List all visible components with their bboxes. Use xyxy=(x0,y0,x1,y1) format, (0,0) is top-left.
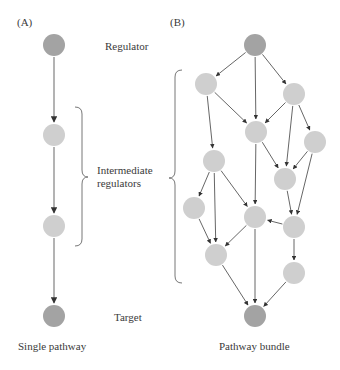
a-node-int2 xyxy=(43,215,65,237)
b-edge-R1-to-MR xyxy=(286,106,292,166)
b-edge-top-to-M1 xyxy=(255,57,256,119)
b-edge-top-to-L1 xyxy=(216,52,245,75)
target-label: Target xyxy=(114,311,142,324)
intermediate-label-line1: Intermediate xyxy=(97,164,153,177)
a-node-target xyxy=(43,305,65,327)
b-edge-L2-to-M2 xyxy=(221,171,247,207)
b-edge-L1-to-M1 xyxy=(215,92,247,123)
b-edge-LL-to-L3 xyxy=(199,219,210,243)
b-node-M2 xyxy=(244,206,266,228)
pathway-diagram xyxy=(0,0,340,370)
b-node-R1 xyxy=(283,83,305,105)
bracket-a xyxy=(75,107,88,246)
b-edge-L2-to-LL xyxy=(199,172,209,196)
b-edge-L1-to-L2 xyxy=(207,96,212,148)
b-node-L2 xyxy=(203,150,225,172)
b-node-R3 xyxy=(283,216,305,238)
b-node-M1 xyxy=(245,121,267,143)
b-edge-top-to-R1 xyxy=(262,54,285,83)
b-node-R2 xyxy=(304,131,326,153)
b-edge-MR-to-R3 xyxy=(287,191,291,214)
b-node-LL xyxy=(183,197,205,219)
b-edge-L2-to-L3 xyxy=(214,173,215,242)
panel-a-label: (A) xyxy=(17,16,32,29)
b-edge-R2-to-MR xyxy=(293,151,307,169)
regulator-label: Regulator xyxy=(105,40,148,53)
intermediate-label-line2: regulators xyxy=(97,177,141,190)
b-edge-R1-to-M1 xyxy=(265,102,285,122)
b-node-L3 xyxy=(205,244,227,266)
b-node-target xyxy=(244,305,266,327)
bracket-b xyxy=(169,70,182,283)
b-edge-R1-to-R2 xyxy=(299,105,310,130)
b-edge-L3-to-target xyxy=(222,265,248,305)
a-node-int1 xyxy=(43,124,65,146)
b-edge-R3-to-M2 xyxy=(268,220,283,224)
b-edge-M2-to-L3 xyxy=(225,225,246,246)
b-node-L1 xyxy=(195,73,217,95)
b-edge-R2-to-R3 xyxy=(297,154,312,215)
b-edge-M1-to-MR xyxy=(262,142,278,168)
panel-a-caption: Single pathway xyxy=(18,340,86,353)
panel-b-nodes xyxy=(183,34,326,327)
panel-b-caption: Pathway bundle xyxy=(219,340,290,353)
b-edge-R4-to-target xyxy=(264,282,286,306)
a-node-regulator xyxy=(43,34,65,56)
b-node-R4 xyxy=(283,262,305,284)
b-edge-M1-to-M2 xyxy=(255,144,256,204)
b-node-top xyxy=(244,34,266,56)
panel-b-label: (B) xyxy=(170,16,185,29)
b-node-MR xyxy=(274,168,296,190)
